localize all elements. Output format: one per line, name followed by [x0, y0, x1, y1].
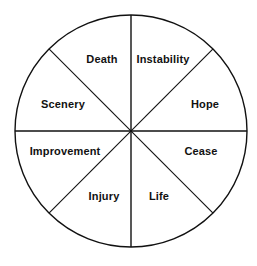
sector-label-death: Death: [86, 53, 117, 65]
wheel-diagram: Death Instability Scenery Hope Improveme…: [0, 0, 257, 266]
sector-label-scenery: Scenery: [41, 98, 85, 110]
sector-label-hope: Hope: [191, 98, 219, 110]
sector-label-life: Life: [149, 190, 169, 202]
wheel-graphic: [0, 0, 257, 266]
sector-label-improvement: Improvement: [30, 145, 101, 157]
sector-label-injury: Injury: [89, 190, 120, 202]
sector-label-instability: Instability: [137, 53, 190, 65]
sector-label-cease: Cease: [184, 145, 217, 157]
